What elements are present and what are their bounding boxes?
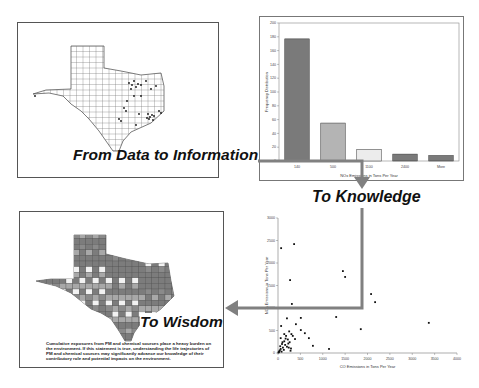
svg-text:1500: 1500 bbox=[341, 357, 349, 361]
nox-histogram-panel: 020406080100120140160180200Frequency Dis… bbox=[259, 16, 464, 181]
svg-text:NOx Emissions in Tons Per Year: NOx Emissions in Tons Per Year bbox=[340, 173, 398, 178]
co-nox-scatter-chart: 0500100015002000250030000500100015002000… bbox=[258, 205, 468, 380]
arrow-left-icon bbox=[225, 300, 238, 316]
svg-text:140: 140 bbox=[270, 63, 276, 67]
svg-text:0: 0 bbox=[277, 357, 279, 361]
svg-text:60: 60 bbox=[272, 118, 276, 122]
svg-text:200: 200 bbox=[270, 21, 276, 25]
svg-text:3500: 3500 bbox=[431, 357, 439, 361]
svg-text:More: More bbox=[437, 165, 445, 169]
svg-text:500: 500 bbox=[330, 165, 336, 169]
caption-to-wisdom: To Wisdom bbox=[140, 313, 223, 331]
svg-text:500: 500 bbox=[269, 329, 275, 333]
svg-text:4000: 4000 bbox=[453, 357, 461, 361]
svg-text:1000: 1000 bbox=[319, 357, 327, 361]
texas-choropleth-panel: Cumulative exposures from PM and chemica… bbox=[19, 211, 224, 368]
svg-text:160: 160 bbox=[270, 49, 276, 53]
svg-text:2500: 2500 bbox=[267, 239, 275, 243]
wisdom-paragraph: Cumulative exposures from PM and chemica… bbox=[46, 341, 216, 361]
svg-text:40: 40 bbox=[272, 132, 276, 136]
nox-histogram-chart: 020406080100120140160180200Frequency Dis… bbox=[260, 17, 465, 182]
svg-text:1100: 1100 bbox=[365, 165, 373, 169]
svg-text:2500: 2500 bbox=[386, 357, 394, 361]
svg-text:3000: 3000 bbox=[408, 357, 416, 361]
svg-text:NOx Emissions in Tons Per Year: NOx Emissions in Tons Per Year bbox=[264, 256, 269, 314]
svg-text:CO Emissions in Tons Per Year: CO Emissions in Tons Per Year bbox=[340, 364, 396, 369]
caption-to-knowledge: To Knowledge bbox=[312, 188, 421, 206]
svg-text:500: 500 bbox=[297, 357, 303, 361]
co-nox-scatter-panel: 0500100015002000250030000500100015002000… bbox=[258, 205, 468, 380]
svg-text:2400: 2400 bbox=[401, 165, 409, 169]
svg-text:Frequency Distribution: Frequency Distribution bbox=[264, 72, 269, 112]
svg-text:20: 20 bbox=[272, 145, 276, 149]
svg-text:80: 80 bbox=[272, 104, 276, 108]
svg-text:2000: 2000 bbox=[364, 357, 372, 361]
svg-text:100: 100 bbox=[270, 90, 276, 94]
svg-text:0: 0 bbox=[274, 159, 276, 163]
svg-text:0: 0 bbox=[273, 351, 275, 355]
svg-text:3000: 3000 bbox=[267, 216, 275, 220]
svg-text:180: 180 bbox=[270, 35, 276, 39]
svg-text:120: 120 bbox=[270, 76, 276, 80]
svg-text:140: 140 bbox=[294, 165, 300, 169]
caption-from-data-to-information: From Data to Information bbox=[73, 146, 258, 164]
